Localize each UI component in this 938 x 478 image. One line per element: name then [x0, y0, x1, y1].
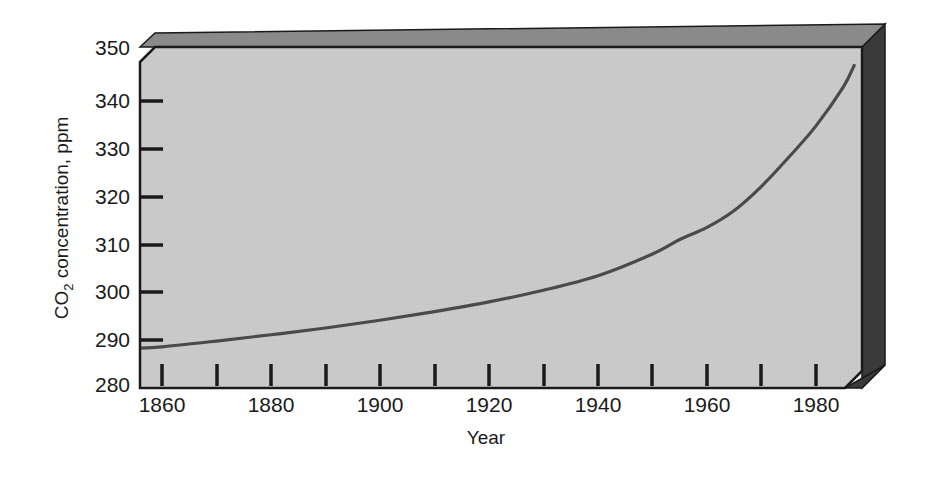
x-axis-tick-labels: 1860 1880 1900 1920 1940 1960 1980 [139, 393, 840, 416]
plot-shadow-right [862, 24, 885, 388]
y-tick-label-300: 300 [95, 280, 130, 303]
chart-figure: 350 340 330 320 310 300 290 280 [0, 0, 938, 478]
y-axis-title-subscript: 2 [61, 284, 76, 291]
x-tick-label-1920: 1920 [466, 393, 513, 416]
x-axis-title: Year [467, 427, 506, 448]
y-axis-title-rest: concentration, ppm [51, 117, 72, 284]
svg-text:CO2 concentration, ppm: CO2 concentration, ppm [51, 117, 76, 320]
x-tick-label-1880: 1880 [248, 393, 295, 416]
y-tick-label-310: 310 [95, 233, 130, 256]
y-tick-label-340: 340 [95, 89, 130, 112]
y-axis-title-main: CO [51, 291, 72, 320]
plot-shadow-top [140, 24, 885, 47]
x-tick-label-1960: 1960 [684, 393, 731, 416]
x-tick-label-1900: 1900 [357, 393, 404, 416]
x-tick-label-1940: 1940 [575, 393, 622, 416]
x-tick-label-1980: 1980 [793, 393, 840, 416]
y-tick-label-320: 320 [95, 185, 130, 208]
y-tick-label-290: 290 [95, 328, 130, 351]
y-axis-tick-labels: 350 340 330 320 310 300 290 280 [95, 36, 130, 396]
y-axis-title: CO2 concentration, ppm [51, 117, 76, 320]
y-tick-label-330: 330 [95, 137, 130, 160]
co2-concentration-line-chart: 350 340 330 320 310 300 290 280 [0, 0, 938, 478]
x-tick-label-1860: 1860 [139, 393, 186, 416]
y-tick-label-350: 350 [95, 36, 130, 59]
y-tick-label-280: 280 [95, 373, 130, 396]
